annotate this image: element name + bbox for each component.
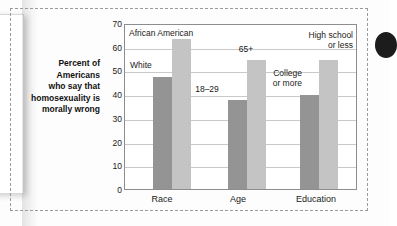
bar-education-high-school-or-less: [319, 60, 338, 189]
x-category-age: Age: [213, 194, 263, 204]
bar-label-highschool-line-2: or less: [295, 40, 353, 50]
bar-education-college-or-more: [300, 95, 319, 189]
y-tick-40: 40: [102, 90, 122, 100]
y-axis-tick-labels: 70 60 50 40 30 20 10 0: [100, 24, 122, 190]
bar-race-african-american: [172, 39, 191, 189]
bar-race-white: [153, 77, 172, 189]
y-tick-70: 70: [102, 19, 122, 29]
bar-age-18-29: [228, 100, 247, 189]
y-tick-60: 60: [102, 43, 122, 53]
y-tick-10: 10: [102, 161, 122, 171]
y-axis-title-line-1: Percent of: [22, 58, 100, 70]
y-axis-title-line-3: who say that: [22, 81, 100, 93]
y-axis-title-line-2: Americans: [22, 70, 100, 82]
y-axis-title-line-5: morally wrong: [22, 104, 100, 116]
bar-label-college-or-more: College or more: [256, 68, 302, 88]
bar-label-college-line-2: or more: [256, 78, 302, 88]
y-tick-50: 50: [102, 66, 122, 76]
x-category-race: Race: [137, 194, 187, 204]
y-axis-title-line-4: homosexuality is: [22, 93, 100, 105]
bar-label-high-school-or-less: High school or less: [295, 30, 353, 50]
bar-label-african-american: African American: [129, 28, 193, 38]
bar-label-65-plus: 65+: [230, 44, 262, 54]
bar-label-college-line-1: College: [256, 68, 302, 78]
x-category-education: Education: [283, 194, 349, 204]
bar-label-highschool-line-1: High school: [295, 30, 353, 40]
bar-label-18-29: 18–29: [185, 84, 229, 94]
y-tick-30: 30: [102, 114, 122, 124]
bar-label-white: White: [130, 60, 152, 70]
y-tick-0: 0: [102, 185, 122, 195]
y-tick-20: 20: [102, 138, 122, 148]
y-axis-title: Percent of Americans who say that homose…: [22, 58, 100, 116]
